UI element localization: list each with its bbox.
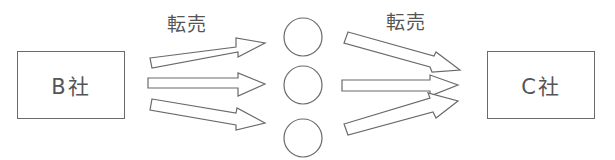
intermediary-circle-3 <box>284 119 322 157</box>
resale-label-left: 転売 <box>167 9 207 36</box>
intermediary-circle-1 <box>284 18 322 56</box>
intermediary-circle-2 <box>284 66 322 104</box>
arrow-mid2-to-c <box>342 75 458 96</box>
company-c-box: C社 <box>487 51 595 119</box>
arrow-b-to-mid2 <box>148 73 265 96</box>
arrow-mid1-to-c <box>344 32 460 72</box>
arrow-b-to-mid3 <box>150 99 265 130</box>
arrow-b-to-mid1 <box>150 38 265 68</box>
company-b-label: B社 <box>51 70 90 100</box>
resale-label-right: 転売 <box>386 7 426 34</box>
company-c-label: C社 <box>521 70 561 100</box>
arrow-mid3-to-c <box>344 93 458 135</box>
company-b-box: B社 <box>17 51 125 119</box>
